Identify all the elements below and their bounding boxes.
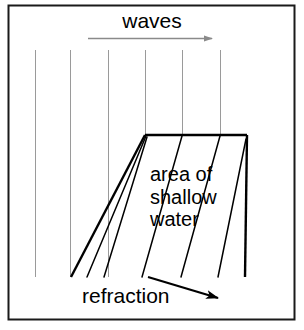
- shallow-water-label-line3: water: [150, 208, 217, 231]
- refracted-ray: [218, 139, 246, 277]
- shallow-water-label-line2: shallow: [150, 186, 217, 209]
- waves-label: waves: [0, 10, 304, 31]
- shallow-water-label-line1: area of: [150, 163, 217, 186]
- refracted-ray: [87, 136, 146, 277]
- wave-refraction-diagram: waves area of shallow water refraction: [0, 0, 304, 330]
- refraction-label: refraction: [82, 285, 170, 306]
- refracted-ray: [104, 137, 147, 277]
- shallow-right-edge: [245, 135, 247, 277]
- shallow-water-label: area of shallow water: [150, 163, 217, 231]
